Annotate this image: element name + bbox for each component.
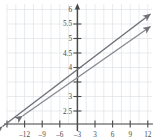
y-axis-arrow bbox=[75, 3, 80, 9]
x-tick-label-6: 6 bbox=[111, 131, 115, 139]
y-tick-label-6: 6 bbox=[68, 6, 72, 14]
x-tick-label-minus-3: –3 bbox=[73, 131, 82, 139]
graph-figure: 6 5.5 5 4.5 4 3 2.5 –12 –9 –6 –3 3 6 9 1… bbox=[0, 0, 155, 140]
y-tick-label-5.5: 5.5 bbox=[63, 20, 72, 28]
coordinate-plane-svg: 6 5.5 5 4.5 4 3 2.5 –12 –9 –6 –3 3 6 9 1… bbox=[0, 0, 155, 140]
data-line-2 bbox=[23, 27, 151, 117]
y-tick-label-3: 3 bbox=[68, 93, 72, 101]
x-tick-label-3: 3 bbox=[93, 131, 97, 139]
x-tick-label-12: 12 bbox=[144, 131, 152, 139]
x-tick-label-minus-9: –9 bbox=[38, 131, 47, 139]
y-tick-label-4.5: 4.5 bbox=[63, 50, 72, 58]
x-tick-label-minus-6: –6 bbox=[55, 131, 64, 139]
y-tick-label-2.5: 2.5 bbox=[63, 108, 72, 116]
y-tick-label-5: 5 bbox=[68, 35, 72, 43]
y-tick-label-4: 4 bbox=[68, 64, 72, 72]
x-tick-label-minus-12: –12 bbox=[18, 131, 30, 139]
x-tick-label-9: 9 bbox=[128, 131, 132, 139]
